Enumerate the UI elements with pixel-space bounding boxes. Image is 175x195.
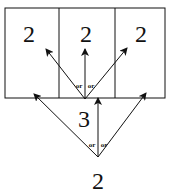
lower-or-right: or bbox=[101, 141, 108, 149]
arrow-to-left-cell bbox=[46, 49, 85, 99]
bottom-node-label: 2 bbox=[92, 168, 104, 194]
upper-or-right: or bbox=[88, 82, 95, 90]
upper-or-left: or bbox=[76, 82, 83, 90]
cell-middle-label: 2 bbox=[80, 21, 92, 47]
cell-right-label: 2 bbox=[135, 21, 147, 47]
lower-or-left: or bbox=[89, 141, 96, 149]
cell-left-label: 2 bbox=[23, 21, 35, 47]
arrow-to-right-cell bbox=[85, 48, 127, 99]
diagram-canvas: 2 2 2 or or 3 or or 2 bbox=[0, 0, 175, 195]
middle-node-label: 3 bbox=[78, 106, 90, 132]
